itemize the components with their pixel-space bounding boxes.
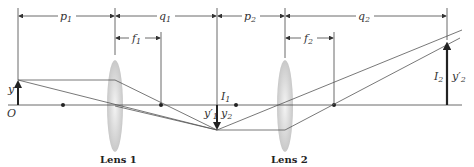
focal-point-2-left xyxy=(234,103,238,107)
ray-parallel-2 xyxy=(217,38,460,130)
two-lens-diagram: p1 q1 p2 q2 f1 f2 y O I1 y′1 y2 I2 y′2 L… xyxy=(0,0,474,167)
focal-point-1-left xyxy=(61,103,65,107)
label-origin: O xyxy=(7,107,16,120)
label-image1-height: y′1 xyxy=(203,107,218,121)
lens-2-label: Lens 2 xyxy=(271,154,308,165)
label-image2-height: y′2 xyxy=(451,70,466,84)
label-object2-height: y2 xyxy=(220,107,232,121)
ray-center-2 xyxy=(217,30,462,130)
label-image2: I2 xyxy=(433,70,443,84)
ray-extra xyxy=(115,106,217,130)
lens-2 xyxy=(277,60,293,152)
lens-1-label: Lens 1 xyxy=(100,154,137,165)
label-image1: I1 xyxy=(220,90,230,104)
label-object-height: y xyxy=(7,83,15,96)
